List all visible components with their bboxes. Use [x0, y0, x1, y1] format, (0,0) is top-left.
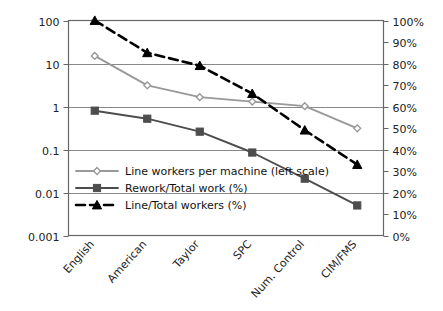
right-axis-tick-label: 90% — [393, 37, 417, 50]
left-axis-tick-label: 0.1 — [42, 145, 60, 158]
right-axis-tick-label: 10% — [393, 209, 417, 222]
left-axis-tick-label: 0.01 — [35, 188, 60, 201]
legend-label: Rework/Total work (%) — [125, 182, 248, 195]
right-axis-tick-label: 40% — [393, 145, 417, 158]
marker-square — [93, 184, 100, 191]
right-axis-tick-label: 100% — [393, 16, 424, 29]
chart-container: 1001010.10.010.001 100%90%80%70%60%50%40… — [0, 0, 443, 311]
marker-square — [91, 107, 98, 114]
left-axis-tick-label: 10 — [46, 59, 60, 72]
left-axis-tick-label: 0.001 — [28, 231, 60, 244]
right-axis-tick-label: 30% — [393, 166, 417, 179]
right-axis-tick-label: 80% — [393, 59, 417, 72]
legend-label: Line/Total workers (%) — [125, 199, 247, 212]
marker-square — [196, 128, 203, 135]
left-axis-tick-label: 100 — [39, 16, 60, 29]
marker-square — [144, 115, 151, 122]
log-line-chart: 1001010.10.010.001 100%90%80%70%60%50%40… — [0, 0, 443, 311]
legend-label: Line workers per machine (left scale) — [125, 165, 329, 178]
right-axis-tick-label: 50% — [393, 123, 417, 136]
left-axis-tick-label: 1 — [53, 102, 60, 115]
right-axis-tick-label: 60% — [393, 102, 417, 115]
marker-square — [249, 149, 256, 156]
right-axis-tick-label: 70% — [393, 80, 417, 93]
right-axis-tick-label: 20% — [393, 188, 417, 201]
marker-square — [354, 202, 361, 209]
right-axis-tick-label: 0% — [393, 231, 410, 244]
